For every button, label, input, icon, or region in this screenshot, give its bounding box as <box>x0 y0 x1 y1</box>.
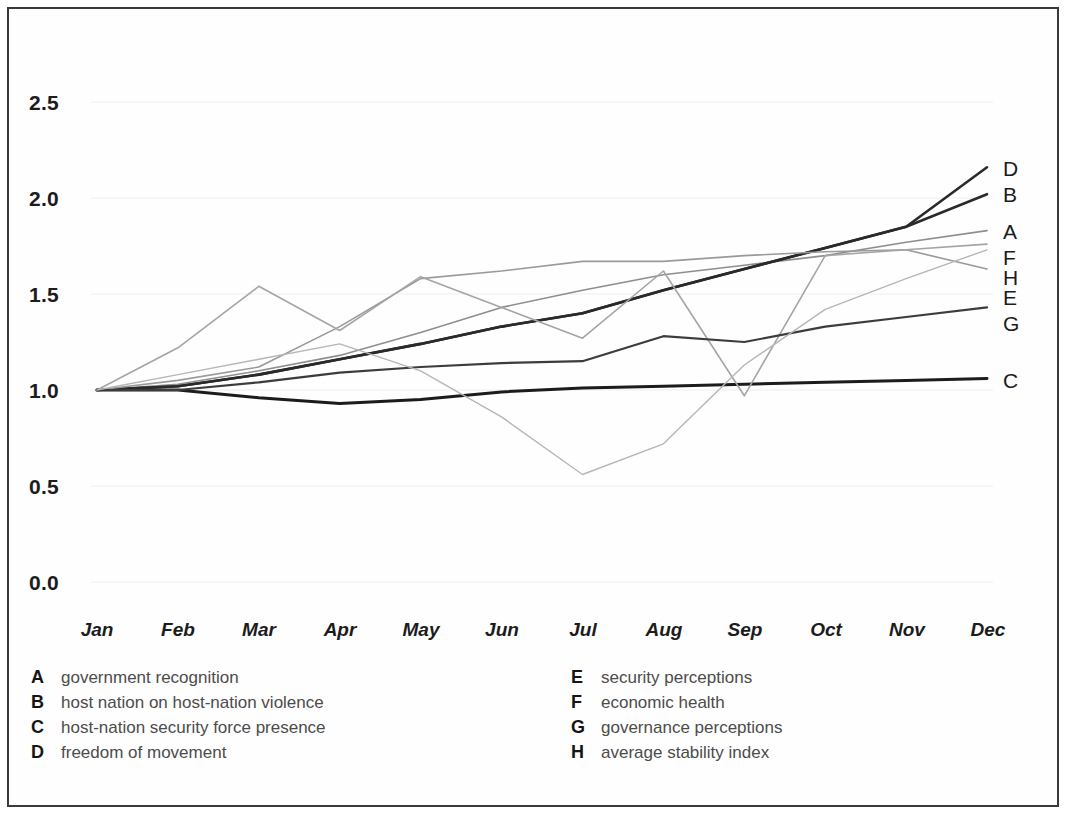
y-tick-1_0: 1.0 <box>0 379 59 403</box>
y-tick-0_0: 0.0 <box>0 571 59 595</box>
legend-item-d: D freedom of movement <box>31 742 551 767</box>
x-tick-feb: Feb <box>143 619 213 641</box>
legend-key-h: H <box>571 742 601 763</box>
legend-column-right: E security perceptions F economic health… <box>571 667 1031 767</box>
legend-key-e: E <box>571 667 601 688</box>
x-tick-jul: Jul <box>548 619 618 641</box>
series-line-c <box>97 379 987 404</box>
y-tick-0_5: 0.5 <box>0 475 59 499</box>
x-tick-aug: Aug <box>629 619 699 641</box>
series-end-label-e: E <box>1003 286 1017 310</box>
series-line-a <box>97 231 987 390</box>
legend-label-b: host nation on host-nation violence <box>61 693 324 713</box>
x-tick-may: May <box>386 619 456 641</box>
y-tick-2_0: 2.0 <box>0 187 59 211</box>
series-line-d <box>97 167 987 390</box>
series-end-label-b: B <box>1003 183 1017 207</box>
legend-key-c: C <box>31 717 61 738</box>
x-tick-apr: Apr <box>305 619 375 641</box>
legend-key-b: B <box>31 692 61 713</box>
y-tick-1_5: 1.5 <box>0 283 59 307</box>
x-tick-oct: Oct <box>791 619 861 641</box>
x-tick-mar: Mar <box>224 619 294 641</box>
legend-item-c: C host-nation security force presence <box>31 717 551 742</box>
series-end-label-c: C <box>1003 369 1018 393</box>
legend-item-g: G governance perceptions <box>571 717 1031 742</box>
legend-key-d: D <box>31 742 61 763</box>
legend-label-a: government recognition <box>61 668 239 688</box>
y-tick-2_5: 2.5 <box>0 91 59 115</box>
legend: A government recognition B host nation o… <box>31 667 1031 787</box>
x-tick-jan: Jan <box>62 619 132 641</box>
legend-key-g: G <box>571 717 601 738</box>
legend-label-e: security perceptions <box>601 668 752 688</box>
figure-frame: 2.5 2.0 1.5 1.0 0.5 0.0 Jan Feb Mar Apr … <box>7 7 1059 807</box>
legend-label-d: freedom of movement <box>61 743 226 763</box>
legend-key-a: A <box>31 667 61 688</box>
legend-item-h: H average stability index <box>571 742 1031 767</box>
x-tick-jun: Jun <box>467 619 537 641</box>
legend-item-a: A government recognition <box>31 667 551 692</box>
legend-item-e: E security perceptions <box>571 667 1031 692</box>
x-tick-sep: Sep <box>710 619 780 641</box>
legend-key-f: F <box>571 692 601 713</box>
series-end-label-d: D <box>1003 157 1018 181</box>
legend-column-left: A government recognition B host nation o… <box>31 667 551 767</box>
legend-label-c: host-nation security force presence <box>61 718 326 738</box>
legend-label-g: governance perceptions <box>601 718 782 738</box>
legend-item-f: F economic health <box>571 692 1031 717</box>
legend-label-h: average stability index <box>601 743 769 763</box>
x-tick-nov: Nov <box>872 619 942 641</box>
x-tick-dec: Dec <box>953 619 1023 641</box>
series-end-label-g: G <box>1003 312 1019 336</box>
legend-label-f: economic health <box>601 693 725 713</box>
series-line-b <box>97 194 987 390</box>
series-end-label-a: A <box>1003 220 1017 244</box>
legend-item-b: B host nation on host-nation violence <box>31 692 551 717</box>
